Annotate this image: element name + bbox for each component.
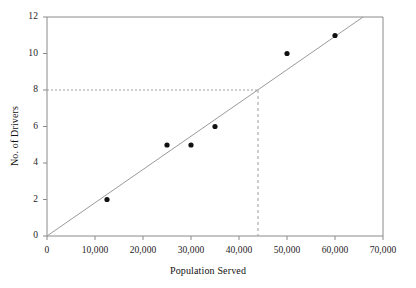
data-point [332, 33, 337, 38]
x-tick-marks [47, 236, 383, 240]
x-tick-label-30000: 30,000 [178, 246, 205, 256]
data-point [212, 124, 217, 129]
x-tick-label-20000: 20,000 [130, 246, 157, 256]
y-axis-title: No. of Drivers [10, 76, 20, 196]
x-tick-label-10000: 10,000 [82, 246, 109, 256]
y-tick-label-2: 2 [20, 195, 38, 205]
data-point [104, 197, 109, 202]
x-tick-label-40000: 40,000 [226, 246, 253, 256]
y-tick-label-0: 0 [20, 231, 38, 241]
x-axis-title: Population Served [0, 266, 416, 276]
y-tick-label-6: 6 [20, 122, 38, 132]
y-tick-label-12: 12 [20, 12, 38, 22]
plot-area [0, 0, 416, 288]
scatter-chart: 0 2 4 6 8 10 12 0 10,000 20,000 30,000 4… [0, 0, 416, 288]
y-tick-label-4: 4 [20, 158, 38, 168]
x-tick-label-0: 0 [45, 246, 50, 256]
x-tick-label-60000: 60,000 [322, 246, 349, 256]
y-tick-label-8: 8 [20, 85, 38, 95]
regression-line [47, 17, 363, 236]
data-point [284, 51, 289, 56]
x-tick-label-70000: 70,000 [370, 246, 397, 256]
y-tick-marks [43, 17, 47, 236]
data-point [188, 142, 193, 147]
x-tick-label-50000: 50,000 [274, 246, 301, 256]
y-tick-label-10: 10 [20, 49, 38, 59]
data-point [164, 142, 169, 147]
